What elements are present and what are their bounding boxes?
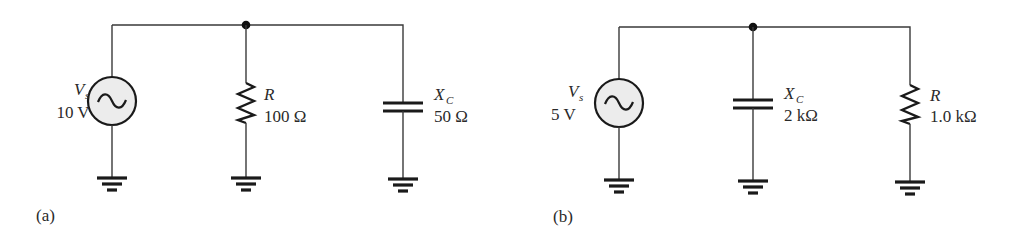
top-wire-a: [112, 25, 403, 103]
ground-icon: [604, 180, 634, 192]
ac-source-b: V s 5 V: [551, 27, 643, 192]
resistor-a: R 100 Ω: [231, 25, 306, 190]
circuit-a: V s 10 V R 100 Ω: [36, 21, 468, 225]
source-value-a: 10 V: [56, 103, 90, 122]
source-value-b: 5 V: [551, 105, 576, 124]
capacitor-symbol-a: X: [433, 85, 445, 104]
capacitor-subscript-b: C: [796, 93, 804, 105]
ground-icon: [895, 182, 925, 194]
source-subscript-a: s: [85, 89, 89, 101]
ground-icon: [388, 179, 418, 191]
ground-icon: [97, 178, 127, 190]
capacitor-b: X C 2 kΩ: [733, 27, 818, 193]
caption-b: (b): [553, 207, 573, 226]
resistor-b: R 1.0 kΩ: [895, 85, 977, 194]
capacitor-subscript-a: C: [446, 94, 454, 106]
capacitor-value-b: 2 kΩ: [784, 106, 818, 125]
circuit-diagrams: V s 10 V R 100 Ω: [0, 0, 1026, 239]
resistor-icon: [902, 85, 918, 124]
top-wire-b: [619, 27, 910, 85]
resistor-value-a: 100 Ω: [264, 107, 306, 126]
capacitor-symbol-b: X: [783, 84, 795, 103]
caption-a: (a): [36, 206, 55, 225]
ground-icon: [738, 181, 768, 193]
resistor-value-b: 1.0 kΩ: [930, 107, 977, 126]
resistor-symbol-b: R: [929, 86, 941, 105]
capacitor-a: X C 50 Ω: [383, 85, 468, 191]
circuit-b: V s 5 V X C 2 kΩ: [551, 23, 977, 226]
ac-source-a: V s 10 V: [56, 25, 136, 190]
ground-icon: [231, 178, 261, 190]
capacitor-value-a: 50 Ω: [434, 107, 468, 126]
source-subscript-b: s: [579, 91, 583, 103]
resistor-icon: [238, 83, 254, 123]
resistor-symbol-a: R: [263, 85, 275, 104]
